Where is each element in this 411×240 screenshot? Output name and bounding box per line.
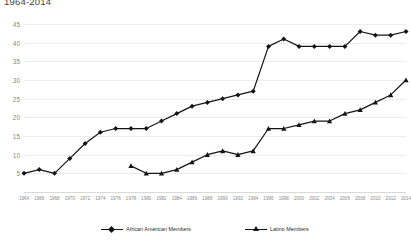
x-axis-tick-label: 2002 — [309, 196, 319, 201]
x-axis-tick-label: 1972 — [80, 196, 90, 201]
y-axis-tick-label: 35 — [13, 58, 20, 65]
x-axis-tick-label: 1964 — [19, 196, 29, 201]
data-point-marker — [220, 148, 225, 153]
y-axis-tick-label: 45 — [13, 21, 20, 28]
x-axis-tick-label: 2014 — [401, 196, 411, 201]
data-point-marker — [266, 44, 271, 49]
x-axis-line — [24, 192, 406, 193]
data-point-marker — [297, 44, 302, 49]
x-axis-tick-label: 1986 — [187, 196, 197, 201]
data-point-marker — [404, 29, 409, 34]
y-axis-tick-label: 30 — [13, 77, 20, 84]
data-point-marker — [159, 119, 164, 124]
y-axis-tick-label: 15 — [13, 133, 20, 140]
data-point-marker — [128, 126, 133, 131]
data-point-marker — [189, 160, 194, 165]
x-axis-tick-labels: 1964196619681970197219741976197819801982… — [24, 196, 406, 212]
diamond-marker-icon — [101, 226, 123, 233]
data-point-marker — [403, 77, 408, 82]
x-axis-tick-label: 2010 — [370, 196, 380, 201]
x-axis-tick-label: 1980 — [141, 196, 151, 201]
data-point-marker — [235, 92, 240, 97]
x-axis-tick-label: 2000 — [294, 196, 304, 201]
x-axis-tick-label: 1998 — [279, 196, 289, 201]
x-axis-tick-label: 2006 — [340, 196, 350, 201]
x-axis-tick-label: 2008 — [355, 196, 365, 201]
x-axis-tick-label: 1966 — [34, 196, 44, 201]
y-axis-tick-label: 25 — [13, 95, 20, 102]
data-point-marker — [37, 167, 42, 172]
x-axis-tick-label: 1990 — [218, 196, 228, 201]
y-axis-tick-label: 10 — [13, 151, 20, 158]
x-axis-tick-label: 1978 — [126, 196, 136, 201]
data-point-marker — [205, 100, 210, 105]
legend-item-african-american-members[interactable]: African American Members — [101, 226, 191, 233]
x-axis-tick-label: 1996 — [263, 196, 273, 201]
x-axis-tick-label: 1994 — [248, 196, 258, 201]
y-axis-tick-labels: 45403530252015105 — [0, 24, 24, 192]
x-axis-tick-label: 1976 — [111, 196, 121, 201]
series-line — [24, 31, 406, 173]
data-point-marker — [281, 36, 286, 41]
data-point-marker — [174, 167, 179, 172]
x-axis-tick-label: 1968 — [49, 196, 59, 201]
legend-label: African American Members — [126, 226, 191, 232]
data-point-marker — [174, 111, 179, 116]
plot-area — [24, 24, 406, 192]
chart-legend: African American Members Latino Members — [0, 222, 410, 236]
triangle-marker-icon — [245, 226, 267, 233]
legend-item-latino-members[interactable]: Latino Members — [245, 226, 309, 233]
x-axis-tick-label: 1970 — [65, 196, 75, 201]
x-axis-tick-label: 1974 — [95, 196, 105, 201]
chart-title: 1964-2014 — [4, 0, 51, 7]
x-axis-tick-label: 1982 — [156, 196, 166, 201]
data-point-marker — [373, 33, 378, 38]
series-layer — [24, 24, 406, 192]
x-axis-tick-label: 1992 — [233, 196, 243, 201]
data-point-marker — [358, 107, 363, 112]
data-point-marker — [128, 163, 133, 168]
data-point-marker — [327, 44, 332, 49]
data-point-marker — [144, 126, 149, 131]
y-axis-tick-label: 40 — [13, 39, 20, 46]
data-point-marker — [388, 33, 393, 38]
x-axis-tick-label: 1988 — [202, 196, 212, 201]
data-point-marker — [220, 96, 225, 101]
data-point-marker — [113, 126, 118, 131]
y-axis-tick-label: 5 — [16, 170, 20, 177]
x-axis-tick-label: 2012 — [386, 196, 396, 201]
data-point-marker — [251, 89, 256, 94]
legend-label: Latino Members — [270, 226, 309, 232]
x-axis-tick-label: 1984 — [172, 196, 182, 201]
data-point-marker — [312, 44, 317, 49]
data-point-marker — [190, 104, 195, 109]
data-point-marker — [373, 100, 378, 105]
x-axis-tick-label: 2004 — [324, 196, 334, 201]
y-axis-tick-label: 20 — [13, 114, 20, 121]
